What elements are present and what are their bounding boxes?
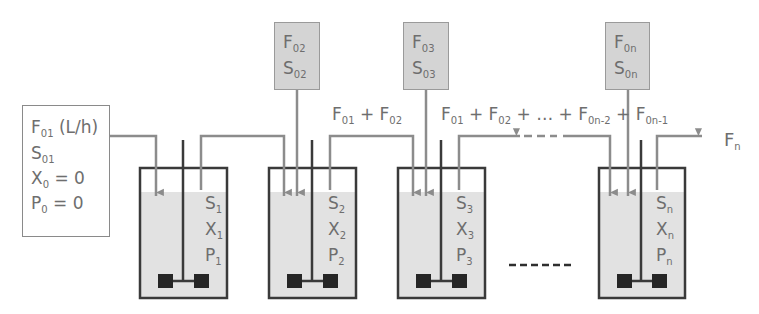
- inlet-line-substrate: S01: [31, 143, 55, 170]
- pipe-inlet-to-tank-1: [109, 136, 156, 196]
- pipe-tank-1-to-tank-2: [201, 136, 284, 196]
- feed-box-2: F02 S02: [274, 22, 320, 90]
- pipe-tank-2-to-tank-3: [330, 136, 413, 196]
- tank-3-substrate: S3: [456, 193, 473, 220]
- impeller-blade-left: [158, 274, 173, 288]
- flow-label-after-tank-3: F01 + F02 + … + F0n-2 + F0n-1: [441, 104, 668, 131]
- feed-2-substrate: S02: [283, 58, 307, 85]
- tank-3-product: P3: [456, 245, 473, 272]
- inlet-conditions-box: F01 (L/h) S01 X0 = 0 P0 = 0: [22, 105, 110, 237]
- tank-n-product: Pn: [656, 245, 673, 272]
- tank-2-substrate: S2: [328, 193, 345, 220]
- inlet-line-biomass: X0 = 0: [31, 168, 85, 195]
- pipe-tank-3-out: [459, 136, 520, 190]
- pipe-outlet-fn: [657, 136, 702, 190]
- tank-2-biomass: X2: [328, 219, 346, 246]
- flow-label-tank-2-3: F01 + F02: [332, 104, 402, 131]
- inlet-line-flow: F01 (L/h): [31, 117, 98, 144]
- feed-2-flow: F02: [283, 32, 306, 59]
- tank-3-biomass: X3: [456, 219, 474, 246]
- feed-n-substrate: S0n: [614, 58, 638, 85]
- impeller-blade-right: [194, 274, 209, 288]
- tank-n-substrate: Sn: [656, 193, 673, 220]
- feed-box-n: F0n S0n: [605, 22, 650, 90]
- inlet-line-product: P0 = 0: [31, 193, 84, 220]
- tank-1-substrate: S1: [205, 193, 222, 220]
- tank-1-biomass: X1: [205, 219, 223, 246]
- tank-2-product: P2: [328, 245, 345, 272]
- tank-n-biomass: Xn: [656, 219, 674, 246]
- tank-1-product: P1: [205, 245, 222, 272]
- flow-label-outlet: Fn: [724, 130, 741, 157]
- feed-3-substrate: S03: [412, 58, 436, 85]
- pipe-into-tank-n: [563, 136, 610, 196]
- feed-3-flow: F03: [412, 32, 435, 59]
- feed-n-flow: F0n: [614, 32, 636, 59]
- feed-box-3: F03 S03: [403, 22, 449, 90]
